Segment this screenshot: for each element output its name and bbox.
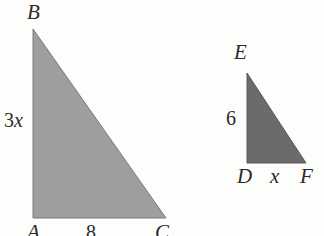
side-label-ab-3x: 3x bbox=[4, 110, 23, 130]
side-label-ac-8: 8 bbox=[86, 222, 96, 236]
vertex-label-b: B bbox=[27, 2, 40, 23]
side-label-ab-coefficient: 3 bbox=[4, 109, 14, 131]
side-label-ab-variable: x bbox=[14, 109, 23, 131]
vertex-label-e: E bbox=[234, 42, 247, 63]
triangle-def-shape bbox=[247, 73, 306, 163]
side-label-de-6: 6 bbox=[226, 108, 236, 128]
side-label-df-x: x bbox=[270, 166, 279, 187]
vertex-label-d: D bbox=[237, 166, 252, 187]
vertex-label-c: C bbox=[155, 222, 169, 236]
triangle-abc-shape bbox=[33, 29, 166, 218]
geometry-figure-canvas: B A C 3x 8 E D F 6 x bbox=[0, 0, 324, 236]
vertex-label-f: F bbox=[300, 166, 313, 187]
triangles-svg bbox=[0, 0, 324, 236]
vertex-label-a: A bbox=[27, 222, 40, 236]
